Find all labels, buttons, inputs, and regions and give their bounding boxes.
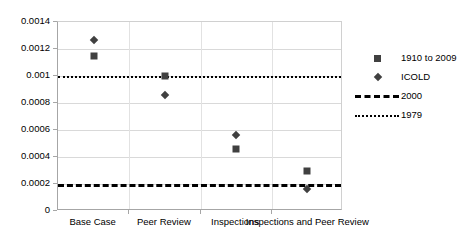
y-axis-tick-label: 0.0006	[0, 124, 50, 134]
data-point-marker	[232, 131, 240, 139]
x-axis-category-label: Inspections and Peer Review	[246, 216, 367, 227]
gridline	[58, 157, 341, 158]
legend-item-label: 2000	[401, 90, 422, 101]
y-axis-tick-mark	[53, 48, 57, 49]
data-point-marker	[89, 35, 97, 43]
y-axis-tick-label: 0.0004	[0, 151, 50, 161]
x-axis-tick-mark	[200, 210, 201, 214]
reference-line-1979	[58, 76, 341, 78]
x-axis-tick-mark	[128, 210, 129, 214]
reference-line-2000	[58, 184, 341, 187]
legend-item-label: ICOLD	[401, 71, 430, 82]
data-point-marker	[304, 167, 311, 174]
y-axis-tick-mark	[53, 75, 57, 76]
y-axis-tick-label: 0.0008	[0, 97, 50, 107]
x-axis-tick-mark	[271, 210, 272, 214]
y-axis-tick-label: 0.0002	[0, 178, 50, 188]
category-divider	[201, 22, 202, 209]
data-point-marker	[161, 73, 168, 80]
legend-item-label: 1979	[401, 109, 422, 120]
gridline	[58, 103, 341, 104]
y-axis-tick-mark	[53, 129, 57, 130]
category-divider	[129, 22, 130, 209]
y-axis-tick-mark	[53, 21, 57, 22]
legend-item[interactable]: 2000	[355, 86, 468, 105]
gridline	[58, 130, 341, 131]
chart-legend: 1910 to 2009ICOLD20001979	[355, 48, 468, 124]
legend-item[interactable]: ICOLD	[355, 67, 468, 86]
y-axis-tick-label: 0.0012	[0, 43, 50, 53]
legend-item-label: 1910 to 2009	[401, 52, 456, 63]
y-axis-tick-label: 0	[0, 205, 50, 215]
dashed-line-icon	[355, 89, 401, 103]
y-axis-tick-mark	[53, 183, 57, 184]
diamond-marker-icon	[355, 70, 401, 84]
data-point-marker	[233, 145, 240, 152]
dotted-line-icon	[355, 108, 401, 122]
plot-area	[57, 21, 342, 210]
y-axis-tick-mark	[53, 102, 57, 103]
y-axis-tick-mark	[53, 156, 57, 157]
y-axis-tick-label: 0.001	[0, 70, 50, 80]
y-axis-tick-label: 0.0014	[0, 16, 50, 26]
legend-item[interactable]: 1910 to 2009	[355, 48, 468, 67]
y-axis-tick-mark	[53, 210, 57, 211]
gridline	[58, 49, 341, 50]
data-point-marker	[161, 91, 169, 99]
scatter-chart: 00.00020.00040.00060.00080.0010.00120.00…	[0, 0, 468, 238]
category-divider	[272, 22, 273, 209]
square-marker-icon	[355, 51, 401, 65]
data-point-marker	[90, 52, 97, 59]
legend-item[interactable]: 1979	[355, 105, 468, 124]
